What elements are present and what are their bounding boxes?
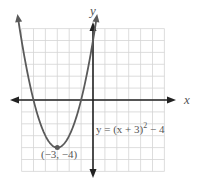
y-axis-down-arrow-icon	[90, 169, 97, 178]
x-axis-right-arrow-icon	[167, 97, 176, 104]
parabola-graph: x y (−3, −4) y = (x + 3)2 − 4	[0, 0, 199, 190]
vertex-label: (−3, −4)	[41, 148, 78, 161]
equation-label: y = (x + 3)2 − 4	[96, 121, 165, 136]
x-axis-label: x	[183, 92, 190, 107]
x-axis-left-arrow-icon	[10, 97, 19, 104]
y-axis-label: y	[88, 3, 96, 18]
